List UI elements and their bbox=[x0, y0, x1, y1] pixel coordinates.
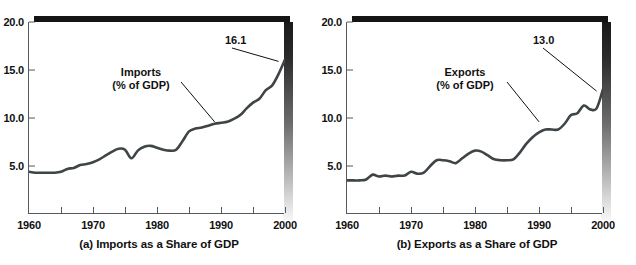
y-axis-tick-mark bbox=[29, 22, 35, 23]
x-axis-tick-mark bbox=[443, 207, 444, 213]
figure-imports-exports-share-of-gdp: 5.010.015.020.019601970198019902000Impor… bbox=[0, 0, 636, 265]
panel-exports: 5.010.015.020.019601970198019902000Expor… bbox=[318, 0, 636, 265]
line-chart-exports bbox=[347, 22, 603, 214]
x-axis-tick-label: 1960 bbox=[17, 219, 41, 231]
plot-wrap-imports: 5.010.015.020.019601970198019902000Impor… bbox=[28, 16, 290, 214]
series-label-leader-line bbox=[507, 82, 539, 122]
series-label-leader-line bbox=[181, 82, 215, 122]
x-axis-tick-label: 1970 bbox=[399, 219, 423, 231]
end-value-label-imports: 16.1 bbox=[225, 34, 246, 46]
x-axis-tick-mark bbox=[475, 207, 476, 213]
x-axis-tick-mark bbox=[539, 207, 540, 213]
plot-wrap-exports: 5.010.015.020.019601970198019902000Expor… bbox=[346, 16, 608, 214]
y-axis-tick-label: 15.0 bbox=[321, 64, 342, 76]
series-label-line2: (% of GDP) bbox=[112, 79, 169, 92]
y-axis-tick-mark bbox=[29, 70, 35, 71]
panel-caption-exports: (b) Exports as a Share of GDP bbox=[318, 238, 636, 250]
x-axis-tick-label: 1990 bbox=[527, 219, 551, 231]
y-axis-tick-label: 20.0 bbox=[321, 16, 342, 28]
y-axis-tick-label: 5.0 bbox=[327, 160, 342, 172]
x-axis-tick-mark bbox=[411, 207, 412, 213]
y-axis-tick-mark bbox=[347, 166, 353, 167]
plot-area-imports: 5.010.015.020.019601970198019902000Impor… bbox=[28, 22, 284, 214]
series-label-line2: (% of GDP) bbox=[436, 79, 493, 92]
series-label-exports: Exports(% of GDP) bbox=[436, 66, 493, 92]
x-axis-tick-mark bbox=[571, 207, 572, 213]
x-axis-tick-mark bbox=[603, 207, 604, 213]
y-axis-tick-mark bbox=[347, 70, 353, 71]
x-axis-tick-mark bbox=[125, 207, 126, 213]
series-label-imports: Imports(% of GDP) bbox=[112, 66, 169, 92]
x-axis-tick-label: 1960 bbox=[335, 219, 359, 231]
y-axis-tick-mark bbox=[347, 22, 353, 23]
x-axis-tick-mark bbox=[157, 207, 158, 213]
x-axis-tick-label: 1990 bbox=[209, 219, 233, 231]
y-axis-tick-label: 20.0 bbox=[3, 16, 24, 28]
x-axis-tick-mark bbox=[189, 207, 190, 213]
x-axis-tick-mark bbox=[61, 207, 62, 213]
x-axis-tick-label: 1970 bbox=[81, 219, 105, 231]
x-axis-tick-label: 2000 bbox=[591, 219, 615, 231]
x-axis-tick-mark bbox=[285, 207, 286, 213]
y-axis-tick-label: 10.0 bbox=[3, 112, 24, 124]
x-axis-tick-label: 2000 bbox=[273, 219, 297, 231]
x-axis-tick-mark bbox=[379, 207, 380, 213]
line-chart-imports bbox=[29, 22, 285, 214]
x-axis-tick-mark bbox=[221, 207, 222, 213]
x-axis-tick-mark bbox=[93, 207, 94, 213]
x-axis-tick-mark bbox=[253, 207, 254, 213]
series-label-line1: Exports bbox=[436, 66, 493, 79]
data-series-line bbox=[347, 89, 603, 180]
series-label-line1: Imports bbox=[112, 66, 169, 79]
x-axis-tick-label: 1980 bbox=[463, 219, 487, 231]
panel-caption-imports: (a) Imports as a Share of GDP bbox=[0, 238, 318, 250]
end-value-leader-line bbox=[232, 48, 279, 61]
y-axis-tick-label: 10.0 bbox=[321, 112, 342, 124]
y-axis-tick-mark bbox=[29, 118, 35, 119]
x-axis-tick-label: 1980 bbox=[145, 219, 169, 231]
y-axis-tick-label: 15.0 bbox=[3, 64, 24, 76]
x-axis-tick-mark bbox=[507, 207, 508, 213]
end-value-label-exports: 13.0 bbox=[533, 34, 554, 46]
y-axis-tick-mark bbox=[29, 166, 35, 167]
plot-area-exports: 5.010.015.020.019601970198019902000Expor… bbox=[346, 22, 602, 214]
y-axis-tick-label: 5.0 bbox=[9, 160, 24, 172]
end-value-leader-line bbox=[543, 48, 597, 91]
panel-imports: 5.010.015.020.019601970198019902000Impor… bbox=[0, 0, 318, 265]
y-axis-tick-mark bbox=[347, 118, 353, 119]
